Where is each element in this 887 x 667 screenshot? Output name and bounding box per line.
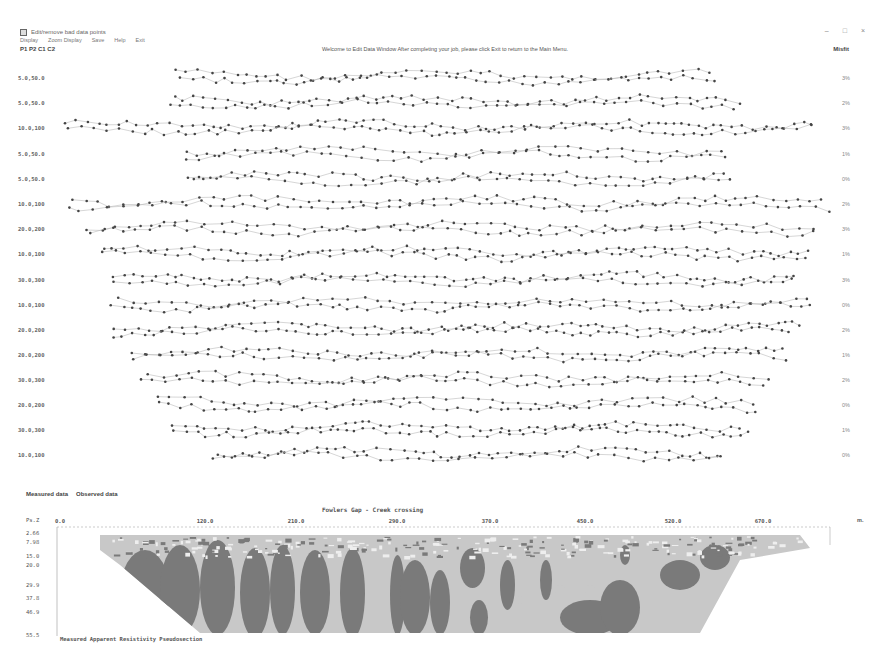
depth-tick: 29.9: [26, 582, 39, 588]
pseudosection-caption: Measured Apparent Resistivity Pseudosect…: [60, 636, 202, 642]
depth-tick: 37.8: [26, 595, 39, 601]
distance-tick: 520.0: [665, 518, 682, 524]
distance-tick: 370.0: [482, 518, 499, 524]
distance-tick: 120.0: [197, 518, 214, 524]
legend-measured: Measured data: [26, 491, 68, 497]
distance-tick: 290.0: [389, 518, 406, 524]
depth-tick: 7.98: [26, 539, 39, 545]
depth-axis-unit: Ps.Z: [26, 517, 39, 523]
depth-tick: 46.9: [26, 609, 39, 615]
data-points-plot[interactable]: [0, 0, 887, 480]
depth-tick: 2.66: [26, 530, 39, 536]
distance-axis-unit: m.: [857, 517, 863, 523]
distance-tick: 210.0: [288, 518, 305, 524]
distance-tick: 0.0: [55, 518, 65, 524]
legend: Measured data Observed data: [26, 491, 118, 497]
distance-tick: 450.0: [577, 518, 594, 524]
depth-tick: 20.0: [26, 562, 39, 568]
depth-tick: 15.0: [26, 553, 39, 559]
legend-observed: Observed data: [76, 491, 118, 497]
depth-tick: 55.5: [26, 632, 39, 638]
distance-tick: 670.0: [755, 518, 772, 524]
pseudosection-title: Fowlers Gap - Creek crossing: [322, 506, 423, 513]
